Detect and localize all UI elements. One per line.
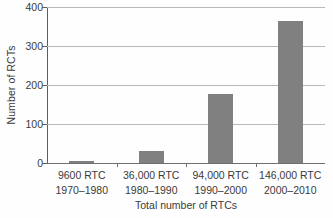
y-tick-mark (42, 163, 47, 164)
x-category-line2: 2000–2010 (256, 183, 326, 198)
plot-area (47, 7, 325, 163)
x-category-label: 146,000 RTC2000–2010 (256, 168, 326, 198)
y-tick-mark (42, 46, 47, 47)
y-tick-mark (42, 85, 47, 86)
y-tick-label: 400 (17, 2, 43, 12)
x-axis-category-labels: 9600 RTC1970–198036,000 RTC1980–199094,0… (47, 168, 325, 200)
y-tick-label: 300 (17, 41, 43, 51)
x-category-line1: 9600 RTC (58, 169, 106, 181)
y-axis-tick-labels: 0100200300400 (14, 0, 43, 170)
bar (278, 21, 303, 163)
x-category-line1: 146,000 RTC (259, 169, 321, 181)
x-tick-mark (186, 163, 187, 167)
bar (208, 94, 233, 163)
x-category-line2: 1990–2000 (186, 183, 256, 198)
bar (139, 151, 164, 163)
x-tick-mark (256, 163, 257, 167)
x-category-line1: 94,000 RTC (193, 169, 249, 181)
x-category-label: 36,000 RTC1980–1990 (117, 168, 187, 198)
y-tick-label: 100 (17, 119, 43, 129)
x-category-line1: 36,000 RTC (123, 169, 179, 181)
y-tick-mark (42, 7, 47, 8)
y-tick-label: 200 (17, 80, 43, 90)
bar-series (47, 7, 325, 163)
x-category-label: 9600 RTC1970–1980 (47, 168, 117, 198)
x-axis-title: Total number of RTCs (47, 199, 325, 211)
y-tick-label: 0 (17, 158, 43, 168)
x-category-label: 94,000 RTC1990–2000 (186, 168, 256, 198)
x-tick-mark (117, 163, 118, 167)
x-category-line2: 1980–1990 (117, 183, 187, 198)
y-tick-mark (42, 124, 47, 125)
x-category-line2: 1970–1980 (47, 183, 117, 198)
bar-chart-figure: Number of RCTs 0100200300400 9600 RTC197… (0, 0, 333, 218)
